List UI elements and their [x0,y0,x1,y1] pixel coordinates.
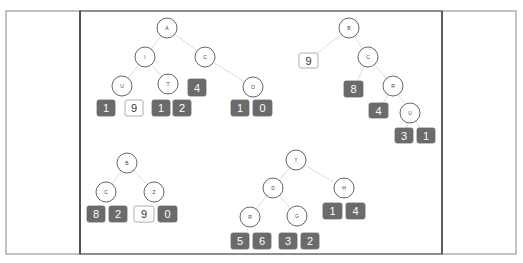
frame-panels [6,11,516,254]
value-label: 3 [285,235,291,247]
value-label: 8 [350,83,356,95]
value-box: 4 [369,103,388,118]
value-box: 2 [301,233,319,249]
value-label: 9 [131,102,137,114]
tree-y-node-r: R [240,207,260,227]
node-label: C [366,54,370,60]
value-box: 0 [158,206,177,222]
value-label: 8 [93,208,99,220]
tree-y-node-h: H [334,178,354,198]
value-label: 4 [194,82,200,94]
value-box: 1 [417,128,435,143]
value-box: 4 [346,203,365,219]
tree-b2-node-z: Z [144,182,164,202]
node-label: D [271,185,275,191]
tree-b-node-u: U [400,103,420,123]
node-label: Z [152,189,155,195]
left-panel [6,11,80,254]
value-box: 1 [323,203,342,219]
value-label: 9 [305,55,311,67]
value-box: 9 [299,53,318,68]
value-box: 2 [173,100,191,116]
tree-y-node-g: G [287,206,307,226]
node-label: I [144,54,145,60]
value-label: 0 [164,208,170,220]
tree-y-node-d: D [263,178,283,198]
value-box: 6 [253,233,271,249]
tree-a-node-o: O [243,77,263,97]
tree-b-node-r: R [383,76,403,96]
tree-y-node-y: Y [286,150,306,170]
tree-a-node-u: U [112,76,132,96]
value-box: 3 [279,233,297,249]
tree-a-node-t: T [158,74,178,94]
value-box: 3 [395,128,413,143]
node-label: R [248,214,252,220]
node-label: U [120,83,124,89]
value-label: 0 [259,102,265,114]
node-label: H [342,185,346,191]
value-label: 3 [401,130,407,142]
node-label: U [408,110,412,116]
value-label: 1 [237,102,243,114]
value-box: 1 [231,100,249,116]
value-label: 5 [237,235,243,247]
value-label: 1 [158,102,164,114]
value-label: 4 [352,205,358,217]
value-box: 9 [134,206,154,222]
tree-nodes: AICUTOBCRUBCZYDHRG [96,18,420,227]
tree-a-node-c: C [195,47,215,67]
value-label: 2 [307,235,313,247]
tree-diagram-canvas: AICUTOBCRUBCZYDHRG 419121098431829014563… [0,0,523,263]
value-label: 2 [115,208,121,220]
value-label: 4 [375,105,381,117]
node-label: C [203,54,207,60]
tree-a-node-a: A [157,18,177,38]
node-label: O [251,84,255,90]
value-label: 1 [103,102,109,114]
value-label: 1 [329,205,335,217]
value-box: 9 [125,100,143,116]
value-label: 1 [423,130,429,142]
value-label: 2 [179,102,185,114]
tree-b2-node-b: B [117,153,137,173]
value-box: 8 [87,206,105,222]
value-box: 2 [109,206,127,222]
node-label: C [104,189,108,195]
value-box: 4 [188,79,206,96]
value-box: 0 [253,100,272,116]
value-label: 9 [141,208,147,220]
node-label: T [166,81,169,87]
node-label: R [391,83,395,89]
value-box: 1 [152,100,170,116]
value-box: 5 [231,233,249,249]
tree-b-node-b: B [339,18,359,38]
value-box: 1 [97,100,115,116]
tree-b-node-c: C [358,47,378,67]
node-label: G [295,213,299,219]
value-box: 8 [344,81,363,97]
right-panel [442,11,516,254]
tree-b2-node-c: C [96,182,116,202]
tree-a-node-i: I [135,47,155,67]
value-label: 6 [259,235,265,247]
